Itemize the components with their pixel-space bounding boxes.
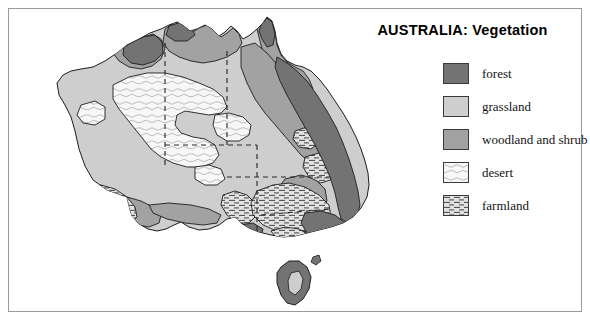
bass-strait-island <box>311 255 321 265</box>
map-legend: forest grassland woodland and shrub dese… <box>443 57 583 222</box>
legend-label-farmland: farmland <box>482 199 529 212</box>
desert-pattern-icon <box>444 163 468 182</box>
legend-item-forest: forest <box>443 57 583 90</box>
legend-swatch-farmland <box>443 195 469 216</box>
figure-root: AUSTRALIA: Vegetation forest grassland w… <box>0 0 590 320</box>
map-title: AUSTRALIA: Vegetation <box>350 22 575 38</box>
legend-swatch-grassland <box>443 96 469 117</box>
legend-label-grassland: grassland <box>482 100 531 113</box>
legend-item-desert: desert <box>443 156 583 189</box>
legend-item-woodland: woodland and shrub <box>443 123 583 156</box>
legend-swatch-woodland <box>443 129 469 150</box>
legend-swatch-desert <box>443 162 469 183</box>
legend-label-forest: forest <box>482 67 512 80</box>
legend-swatch-forest <box>443 63 469 84</box>
legend-label-desert: desert <box>482 166 513 179</box>
legend-item-grassland: grassland <box>443 90 583 123</box>
farmland-pattern-icon <box>444 196 468 215</box>
southwest-corner-forest <box>89 209 125 237</box>
legend-label-woodland: woodland and shrub <box>482 133 587 146</box>
legend-item-farmland: farmland <box>443 189 583 222</box>
tasmania <box>277 255 321 305</box>
